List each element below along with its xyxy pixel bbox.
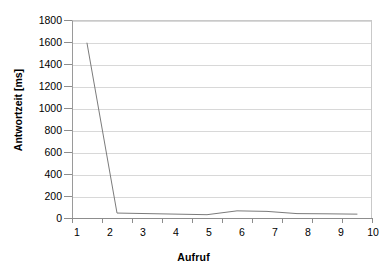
series-line [87,43,357,215]
x-tick-label: 3 [128,227,158,238]
y-tick-label: 1000 [2,103,62,114]
x-tick-label: 1 [62,227,92,238]
x-tick-label: 10 [358,227,387,238]
y-tick-label: 0 [2,213,62,224]
y-tick-label: 1800 [2,15,62,26]
y-axis-title: Antwortzeit [ms] [12,44,24,176]
x-tick-label: 2 [95,227,125,238]
x-tick-label: 6 [227,227,257,238]
x-axis-title: Aufruf [0,251,387,263]
y-tick-label: 800 [2,125,62,136]
x-tick-label: 9 [326,227,356,238]
x-tick-label: 4 [161,227,191,238]
y-tick-label: 400 [2,169,62,180]
y-tick-label: 1400 [2,59,62,70]
y-tick-label: 200 [2,191,62,202]
y-tick-label: 600 [2,147,62,158]
x-tick-label: 5 [194,227,224,238]
data-series-antwortzeit [72,20,372,218]
y-tick-label: 1200 [2,81,62,92]
x-tick-label: 7 [260,227,290,238]
y-tick-label: 1600 [2,37,62,48]
line-chart: 1800 1600 1400 1200 1000 800 600 400 200… [0,0,387,276]
x-tick-label: 8 [293,227,323,238]
y-axis-labels: 1800 1600 1400 1200 1000 800 600 400 200… [0,0,62,276]
